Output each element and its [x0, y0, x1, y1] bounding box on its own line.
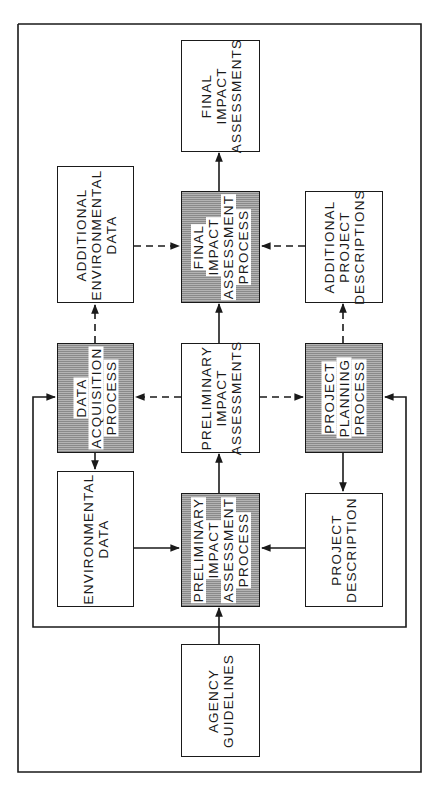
node-preliminary-impact-assessment-process: PRELIMINARY IMPACT ASSESSMENT PROCESS	[181, 493, 260, 607]
node-label: PRELIMINARY IMPACT ASSESSMENT PROCESS	[191, 497, 251, 603]
node-label: PRELIMINARY IMPACT ASSESSMENTS	[198, 341, 243, 455]
node-additional-project-descriptions: ADDITIONAL PROJECT DESCRIPTIONS	[305, 191, 383, 303]
node-label: AGENCY GUIDELINES	[206, 654, 236, 748]
node-label: PROJECT DESCRIPTION	[329, 497, 359, 602]
node-final-impact-assessments: FINAL IMPACT ASSESSMENTS	[181, 40, 260, 152]
node-label: FINAL IMPACT ASSESSMENT PROCESS	[191, 194, 251, 300]
node-environmental-data: ENVIRONMENTAL DATA	[57, 471, 134, 607]
node-label: ADDITIONAL ENVIRONMENTAL DATA	[73, 169, 118, 300]
node-additional-environmental-data: ADDITIONAL ENVIRONMENTAL DATA	[57, 166, 134, 303]
node-final-impact-assessment-process: FINAL IMPACT ASSESSMENT PROCESS	[181, 191, 260, 303]
node-project-description: PROJECT DESCRIPTION	[305, 493, 383, 607]
node-label: PROJECT PLANNING PROCESS	[322, 358, 367, 439]
node-preliminary-impact-assessments: PRELIMINARY IMPACT ASSESSMENTS	[181, 343, 260, 453]
node-label: DATA ACQUISITION PROCESS	[73, 347, 118, 450]
node-project-planning-process: PROJECT PLANNING PROCESS	[305, 343, 383, 453]
node-agency-guidelines: AGENCY GUIDELINES	[181, 644, 260, 757]
node-label: ENVIRONMENTAL DATA	[81, 474, 111, 605]
node-label: FINAL IMPACT ASSESSMENTS	[198, 39, 243, 153]
node-label: ADDITIONAL PROJECT DESCRIPTIONS	[322, 189, 367, 305]
node-data-acquisition-process: DATA ACQUISITION PROCESS	[57, 343, 134, 453]
